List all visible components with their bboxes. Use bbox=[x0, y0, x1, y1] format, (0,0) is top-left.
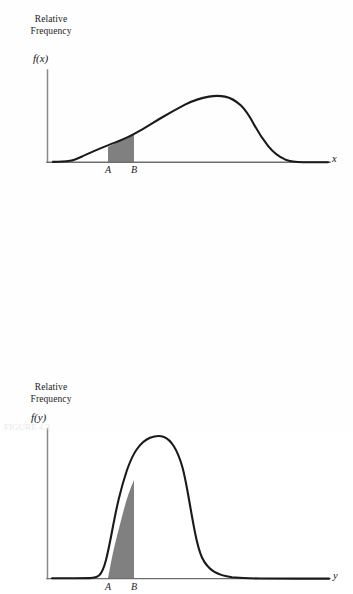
point-label-a-top: A bbox=[101, 164, 115, 175]
y-axis-label-bottom: y bbox=[333, 570, 338, 581]
density-plot-fx bbox=[0, 0, 353, 190]
curve-fx bbox=[53, 96, 328, 162]
point-label-a-bottom: A bbox=[101, 581, 115, 592]
point-label-b-bottom: B bbox=[127, 581, 141, 592]
chart-panel-bottom: Relative Frequency f(y) y A B bbox=[0, 186, 353, 416]
curve-fy bbox=[52, 436, 329, 579]
shaded-area-ab-top bbox=[108, 134, 134, 162]
density-plot-fy bbox=[0, 372, 353, 594]
point-label-b-top: B bbox=[127, 164, 141, 175]
x-axis-label-top: x bbox=[332, 153, 337, 164]
chart-panel-top: Relative Frequency f(x) x A B bbox=[0, 0, 353, 190]
clipped-figure-caption: FIGURE 4.3 bbox=[4, 422, 50, 432]
